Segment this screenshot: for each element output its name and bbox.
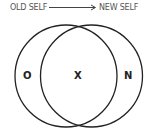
intersection-region-label: X [74,71,82,81]
venn-diagram: OLD SELF NEW SELF O X N [0,0,150,136]
diagram-graphics [0,0,150,136]
new-only-region-label: N [124,71,132,81]
old-only-region-label: O [23,71,32,81]
arrow-icon [49,5,96,10]
new-self-label: NEW SELF [99,3,138,12]
